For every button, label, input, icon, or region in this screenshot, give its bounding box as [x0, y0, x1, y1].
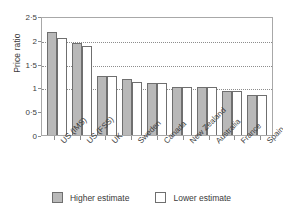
bar-group — [170, 18, 195, 135]
bar-chart-figure: Price ratio 00·511·522·5 US (IMS)US (FSS… — [0, 0, 283, 220]
legend-item: Higher estimate — [52, 192, 130, 203]
legend-item: Lower estimate — [155, 192, 231, 203]
bar-higher — [47, 32, 57, 135]
y-tick-mark — [38, 17, 41, 18]
x-tick-label: Sweden — [136, 139, 142, 145]
bar-groups — [42, 18, 272, 135]
x-tick-label: New Zealand — [188, 139, 194, 145]
legend-swatch-higher — [52, 192, 63, 203]
bar-lower — [132, 82, 142, 135]
y-tick-label: 2 — [0, 36, 37, 45]
bar-higher — [122, 79, 132, 135]
y-tick-label: 1 — [0, 84, 37, 93]
y-tick-mark — [38, 88, 41, 89]
x-tick-label: Canada — [162, 139, 168, 145]
legend-label: Lower estimate — [173, 193, 231, 203]
bar-group — [144, 18, 169, 135]
y-tick-label: 2·5 — [0, 13, 37, 22]
bar-group — [119, 18, 144, 135]
legend-label: Higher estimate — [70, 193, 130, 203]
y-tick-mark — [38, 65, 41, 66]
bar-group — [245, 18, 270, 135]
bar-group — [220, 18, 245, 135]
x-tick-label: France — [239, 139, 245, 145]
legend-swatch-lower — [155, 192, 166, 203]
bar-lower — [57, 38, 67, 135]
bar-group — [44, 18, 69, 135]
y-tick-label: 0·5 — [0, 108, 37, 117]
y-tick-mark — [38, 41, 41, 42]
y-tick-mark — [38, 112, 41, 113]
x-axis-labels: US (IMS)US (FSS)UKSwedenCanadaNew Zealan… — [41, 139, 273, 185]
x-tick-label: UK — [110, 139, 116, 145]
x-tick-label: Australia — [214, 139, 220, 145]
legend: Higher estimateLower estimate — [0, 192, 283, 203]
y-tick-label: 1·5 — [0, 60, 37, 69]
plot-inner — [42, 18, 272, 135]
x-tick-label: US (IMS) — [59, 139, 65, 145]
x-tick-label: Spain — [265, 139, 271, 145]
x-tick-label: US (FSS) — [85, 139, 91, 145]
y-tick-label: 0 — [0, 132, 37, 141]
